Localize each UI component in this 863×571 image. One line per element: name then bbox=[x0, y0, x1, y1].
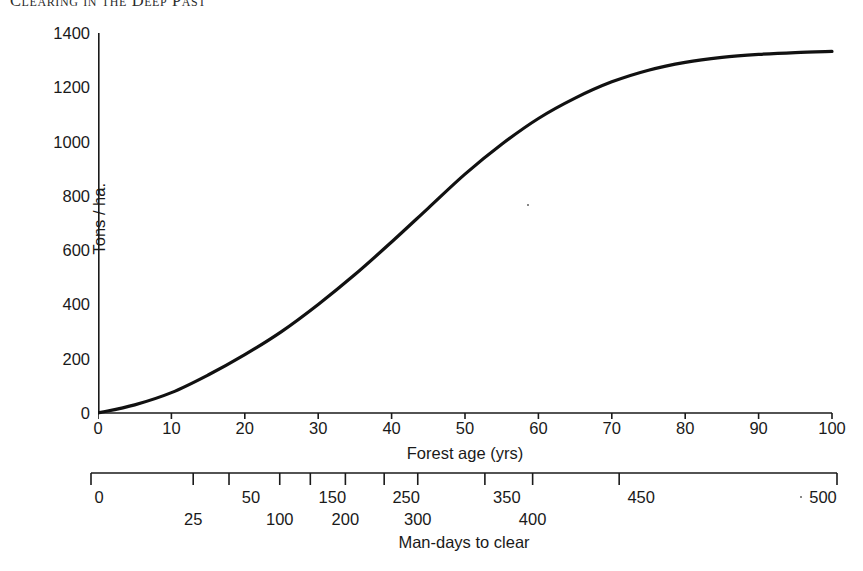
x-tick-label: 30 bbox=[309, 419, 327, 438]
man-days-tick-label: 300 bbox=[404, 510, 432, 529]
man-days-axis-canvas bbox=[90, 472, 838, 490]
x-axis-label: Forest age (yrs) bbox=[98, 444, 832, 463]
man-days-tick-label: 450 bbox=[627, 488, 655, 507]
y-tick-label: 200 bbox=[62, 349, 90, 368]
y-tick-label: 1200 bbox=[53, 78, 90, 97]
man-days-tick-label: 150 bbox=[319, 488, 347, 507]
man-days-axis-label: Man-days to clear bbox=[90, 533, 838, 552]
x-tick-label: 70 bbox=[603, 419, 621, 438]
y-tick-label: 600 bbox=[62, 241, 90, 260]
y-tick-label: 800 bbox=[62, 186, 90, 205]
y-axis-label: Tons / ha. bbox=[90, 183, 109, 255]
y-tick-label: 400 bbox=[62, 295, 90, 314]
x-tick-label: 0 bbox=[93, 419, 102, 438]
biomass-curve bbox=[98, 51, 832, 413]
man-days-tick-label: 400 bbox=[519, 510, 547, 529]
x-tick-label: 100 bbox=[818, 419, 846, 438]
scan-speck bbox=[527, 204, 529, 206]
man-days-tick-label: 50 bbox=[242, 488, 260, 507]
man-days-tick-label: 0 bbox=[94, 488, 103, 507]
x-tick-label: 60 bbox=[529, 419, 547, 438]
man-days-tick-label: 25 bbox=[184, 510, 202, 529]
x-tick-label: 80 bbox=[676, 419, 694, 438]
man-days-tick-label: 350 bbox=[493, 488, 521, 507]
man-days-tick-label: 100 bbox=[266, 510, 294, 529]
x-axis-tick-labels: 0102030405060708090100 bbox=[98, 419, 832, 441]
x-tick-label: 50 bbox=[456, 419, 474, 438]
chart-canvas bbox=[98, 33, 838, 419]
y-axis-tick-labels: 0200400600800100012001400 bbox=[30, 33, 90, 413]
man-days-tick-label: 500 bbox=[809, 488, 837, 507]
x-tick-label: 40 bbox=[382, 419, 400, 438]
running-header: Clearing in the Deep Past bbox=[10, 0, 206, 13]
plot-area: Tons / ha. bbox=[98, 33, 832, 413]
x-tick-label: 90 bbox=[749, 419, 767, 438]
y-tick-label: 1400 bbox=[53, 24, 90, 43]
man-days-tick-label: 200 bbox=[332, 510, 360, 529]
man-days-tick-label: 250 bbox=[392, 488, 420, 507]
x-tick-label: 10 bbox=[162, 419, 180, 438]
scan-speck bbox=[800, 496, 802, 498]
x-tick-label: 20 bbox=[236, 419, 254, 438]
y-tick-label: 1000 bbox=[53, 132, 90, 151]
y-tick-label: 0 bbox=[81, 404, 90, 423]
axis-lines bbox=[99, 33, 832, 413]
figure-clearing-in-the-deep-past: Clearing in the Deep Past Tons / ha. 020… bbox=[0, 0, 863, 571]
